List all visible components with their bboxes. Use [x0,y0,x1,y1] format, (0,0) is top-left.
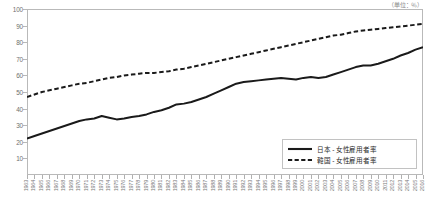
x-tick-label: 1986 [196,180,202,191]
x-tick-mark [161,175,162,179]
legend-label-japan: 日本 - 女性雇用者率 [317,144,377,154]
x-tick-label: 2000 [301,180,307,191]
x-tick-mark [147,175,148,179]
y-tick-label: 80 [16,39,23,46]
x-tick-label: 1980 [151,180,157,191]
x-tick-mark [229,175,230,179]
x-tick-label: 1998 [286,180,292,191]
x-tick-label: 1969 [69,180,75,191]
x-tick-mark [42,175,43,179]
x-tick-mark [154,175,155,179]
x-tick-label: 2008 [360,180,366,191]
x-tick-label: 1999 [293,180,299,191]
x-tick-label: 1975 [114,180,120,191]
x-tick-label: 1970 [77,180,83,191]
x-tick-mark [221,175,222,179]
x-tick-label: 2009 [368,180,374,191]
x-tick-mark [401,175,402,179]
x-tick-label: 1990 [226,180,232,191]
x-tick-mark [356,175,357,179]
x-tick-mark [363,175,364,179]
y-axis: 102030405060708090100 [0,9,27,175]
x-tick-label: 1972 [91,180,97,191]
unit-label: （単位：％） [388,0,423,9]
x-tick-mark [348,175,349,179]
x-tick-mark [191,175,192,179]
legend-item-japan: 日本 - 女性雇用者率 [287,143,412,154]
x-tick-label: 2011 [383,180,389,191]
y-tick-label: 10 [16,155,23,162]
x-tick-mark [251,175,252,179]
x-tick-label: 2004 [331,180,337,191]
x-tick-label: 1993 [248,180,254,191]
y-tick-label: 40 [16,105,23,112]
x-tick-mark [311,175,312,179]
y-tick-label: 20 [16,138,23,145]
x-tick-label: 2016 [420,180,426,191]
x-tick-mark [318,175,319,179]
x-tick-label: 1992 [241,180,247,191]
x-tick-label: 1966 [47,180,53,191]
x-tick-mark [169,175,170,179]
x-tick-mark [266,175,267,179]
x-tick-label: 2003 [323,180,329,191]
legend-label-korea: 韓国 - 女性雇用者率 [317,155,377,165]
y-tick-label: 100 [13,6,23,13]
y-tick-label: 30 [16,122,23,129]
x-tick-mark [341,175,342,179]
x-tick-label: 2002 [316,180,322,191]
x-tick-mark [393,175,394,179]
y-tick-label: 70 [16,55,23,62]
x-tick-label: 2006 [345,180,351,191]
x-tick-mark [333,175,334,179]
x-tick-mark [274,175,275,179]
x-tick-label: 1994 [256,180,262,191]
x-tick-label: 1983 [174,180,180,191]
x-tick-mark [281,175,282,179]
x-tick-label: 1971 [84,180,90,191]
x-tick-label: 2010 [375,180,381,191]
x-tick-mark [124,175,125,179]
x-tick-mark [214,175,215,179]
x-tick-label: 1976 [121,180,127,191]
x-tick-mark [296,175,297,179]
x-tick-mark [303,175,304,179]
x-tick-mark [423,175,424,179]
x-tick-label: 1997 [278,180,284,191]
legend-item-korea: 韓国 - 女性雇用者率 [287,154,412,165]
y-tick-label: 90 [16,22,23,29]
series-line-japan [27,47,423,138]
x-tick-mark [109,175,110,179]
x-tick-label: 2014 [405,180,411,191]
x-tick-mark [79,175,80,179]
x-tick-mark [27,175,28,179]
x-tick-mark [386,175,387,179]
x-tick-mark [206,175,207,179]
x-tick-mark [371,175,372,179]
x-tick-label: 2012 [390,180,396,191]
x-tick-label: 1989 [218,180,224,191]
x-tick-label: 2007 [353,180,359,191]
x-tick-label: 2005 [338,180,344,191]
x-tick-label: 1995 [263,180,269,191]
x-tick-label: 1981 [159,180,165,191]
x-tick-mark [57,175,58,179]
x-tick-label: 1965 [39,180,45,191]
x-tick-label: 2015 [413,180,419,191]
x-tick-mark [117,175,118,179]
x-tick-mark [87,175,88,179]
x-tick-label: 2001 [308,180,314,191]
x-tick-mark [139,175,140,179]
x-tick-mark [259,175,260,179]
x-tick-label: 1987 [204,180,210,191]
y-tick-label: 60 [16,72,23,79]
legend-swatch-dashed-icon [287,156,313,164]
x-tick-label: 1978 [136,180,142,191]
x-tick-label: 1985 [189,180,195,191]
x-tick-label: 1967 [54,180,60,191]
x-tick-label: 1996 [271,180,277,191]
x-tick-label: 1991 [233,180,239,191]
x-tick-label: 1988 [211,180,217,191]
x-tick-mark [236,175,237,179]
x-tick-mark [378,175,379,179]
